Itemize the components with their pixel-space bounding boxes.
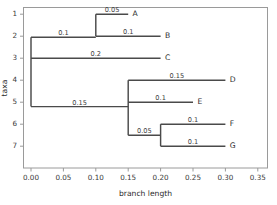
y-axis-title: taxa [0,80,9,97]
branch-label-tip-f: 0.1 [188,116,199,124]
branch-label-tip-d: 0.15 [169,72,184,80]
x-tick-label-6: 0.30 [217,173,233,182]
x-tick-label-0: 0.00 [23,173,39,182]
tip-label-f: F [230,119,234,128]
tip-label-c: C [165,53,170,62]
branch-label-tip-c: 0.2 [91,50,102,58]
branch-label-defg-to-fg: 0.05 [137,127,152,135]
y-tick-label-1: 1 [12,9,17,18]
y-tick-label-2: 2 [12,31,17,40]
tip-label-b: B [165,31,170,40]
tree-plot: 0.00 0.05 0.10 0.15 0.20 0.25 0.30 0.35 … [0,0,277,205]
branch-label-tip-e: 0.1 [155,94,166,102]
y-tick-label-3: 3 [12,53,17,62]
y-tick-label-4: 4 [12,75,17,84]
x-tick-label-1: 0.05 [55,173,71,182]
y-tick-label-7: 7 [12,141,17,150]
branch-label-root-to-ab: 0.1 [58,29,69,37]
x-tick-label-3: 0.15 [120,173,136,182]
tip-label-e: E [197,97,202,106]
tip-label-a: A [133,9,139,18]
tip-label-d: D [230,75,236,84]
x-axis-ticks: 0.00 0.05 0.10 0.15 0.20 0.25 0.30 0.35 [23,168,266,182]
branch-label-tip-g: 0.1 [188,138,199,146]
phylogenetic-tree-figure: 0.00 0.05 0.10 0.15 0.20 0.25 0.30 0.35 … [0,0,277,205]
y-tick-label-6: 6 [12,119,17,128]
x-axis-title: branch length [119,189,172,198]
y-tick-label-5: 5 [12,97,17,106]
branch-label-tip-a: 0.05 [105,6,120,14]
y-axis-ticks: 1 2 3 4 5 6 7 [12,9,23,150]
tip-label-g: G [230,141,236,150]
branch-label-root-to-defg: 0.15 [72,99,87,107]
x-tick-label-7: 0.35 [250,173,266,182]
branch-label-tip-b: 0.1 [123,28,134,36]
x-tick-label-4: 0.20 [153,173,169,182]
x-tick-label-2: 0.10 [88,173,104,182]
x-tick-label-5: 0.25 [185,173,201,182]
